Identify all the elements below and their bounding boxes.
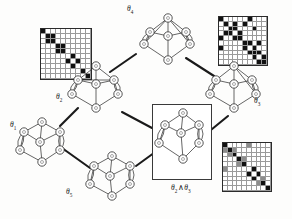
graph-vertex bbox=[164, 32, 172, 40]
graph-meet bbox=[152, 104, 212, 180]
matrix-intersection bbox=[222, 142, 272, 192]
graph-vertex bbox=[92, 104, 100, 112]
graph-vertex bbox=[114, 90, 122, 98]
matrix-cell bbox=[262, 60, 267, 65]
graph-theta2 bbox=[68, 62, 124, 116]
matrix-cell bbox=[266, 186, 271, 191]
graph-drawing bbox=[68, 62, 124, 116]
label-subscript: 4 bbox=[131, 9, 134, 15]
graph-vertex bbox=[38, 118, 46, 126]
graph-drawing bbox=[84, 150, 140, 204]
graph-vertex bbox=[126, 180, 134, 188]
graph-vertex bbox=[20, 128, 28, 136]
matrix-sparse-scattered bbox=[218, 16, 268, 66]
label-subscript: 3 bbox=[188, 188, 191, 194]
graph-vertex bbox=[110, 76, 118, 84]
graph-vertex bbox=[212, 76, 220, 84]
graph-vertex bbox=[36, 138, 44, 146]
graph-vertex bbox=[230, 104, 238, 112]
graph-vertex bbox=[74, 76, 82, 84]
label-subscript: 1 bbox=[14, 125, 17, 131]
label-theta3: θ3 bbox=[254, 97, 260, 107]
graph-vertex bbox=[108, 192, 116, 200]
graph-theta4 bbox=[140, 14, 196, 68]
graph-vertex bbox=[230, 80, 238, 88]
graph-vertex bbox=[230, 62, 238, 70]
figure-canvas: θ4θ2θ3θ1θ5θ2∧θ3 bbox=[0, 0, 292, 219]
graph-vertex bbox=[140, 40, 148, 48]
graph-theta3 bbox=[206, 62, 262, 116]
label-theta5: θ5 bbox=[66, 188, 72, 198]
graph-vertex bbox=[179, 109, 187, 117]
graph-vertex bbox=[248, 76, 256, 84]
graph-vertex bbox=[92, 80, 100, 88]
graph-vertex-group bbox=[155, 109, 203, 163]
graph-vertex bbox=[106, 172, 114, 180]
label-subscript: 3 bbox=[258, 101, 261, 107]
label-theta2: θ2 bbox=[56, 93, 62, 103]
graph-vertex bbox=[86, 180, 94, 188]
graph-vertex bbox=[206, 90, 214, 98]
graph-vertex bbox=[108, 152, 116, 160]
graph-vertex bbox=[146, 28, 154, 36]
graph-drawing bbox=[153, 105, 211, 179]
label-theta4: θ4 bbox=[127, 5, 133, 15]
label-theta1: θ1 bbox=[10, 121, 16, 131]
graph-vertex bbox=[164, 14, 172, 22]
label-subscript: 5 bbox=[70, 192, 73, 198]
graph-drawing bbox=[140, 14, 196, 68]
graph-vertex bbox=[90, 162, 98, 170]
graph-vertex bbox=[164, 56, 172, 64]
graph-vertex bbox=[56, 146, 64, 154]
graph-vertex-group bbox=[68, 62, 122, 112]
graph-vertex bbox=[177, 129, 185, 137]
graph-vertex bbox=[38, 158, 46, 166]
graph-vertex-group bbox=[206, 62, 260, 112]
graph-vertex bbox=[56, 128, 64, 136]
graph-vertex bbox=[126, 162, 134, 170]
label-meet: θ2∧θ3 bbox=[171, 184, 191, 194]
graph-vertex bbox=[16, 146, 24, 154]
graph-vertex bbox=[182, 28, 190, 36]
graph-drawing bbox=[14, 116, 70, 170]
graph-vertex bbox=[195, 121, 203, 129]
graph-theta1 bbox=[14, 116, 70, 170]
edge-theta2-meet bbox=[122, 112, 152, 128]
graph-vertex bbox=[195, 139, 203, 147]
graph-drawing bbox=[206, 62, 262, 116]
graph-vertex bbox=[155, 139, 163, 147]
graph-vertex bbox=[179, 155, 187, 163]
graph-vertex bbox=[68, 90, 76, 98]
graph-theta5 bbox=[84, 150, 140, 204]
graph-vertex bbox=[92, 62, 100, 70]
graph-vertex bbox=[186, 40, 194, 48]
graph-vertex bbox=[161, 121, 169, 129]
label-subscript: 2 bbox=[60, 97, 63, 103]
